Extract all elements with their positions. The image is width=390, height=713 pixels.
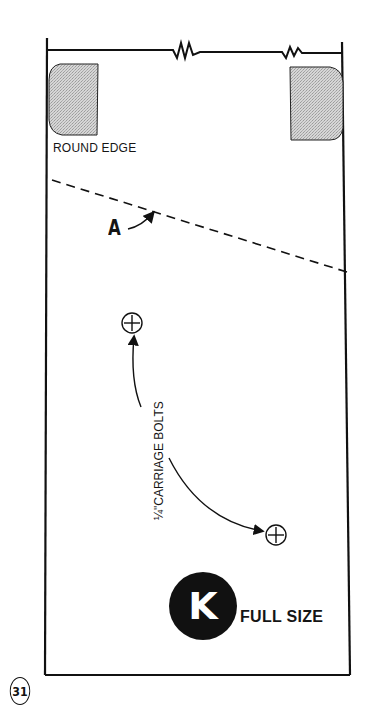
round-edge-left <box>49 64 98 135</box>
arrow-bolt-bottom <box>169 458 262 531</box>
page-number: 31 <box>10 677 30 705</box>
round-edge-label: ROUND EDGE <box>53 141 136 155</box>
break-line <box>48 43 342 58</box>
bolt-hole-top <box>122 313 142 333</box>
part-letter: K <box>177 580 229 632</box>
round-edge-right <box>290 67 343 140</box>
arrow-bolt-top <box>133 337 141 407</box>
cut-line-a <box>52 180 350 273</box>
bolt-hole-bottom <box>266 525 286 545</box>
arrow-a <box>128 213 153 229</box>
scale-label: FULL SIZE <box>240 608 323 626</box>
carriage-bolts-label: ¼"CARRIAGE BOLTS <box>152 401 166 520</box>
cut-line-label: A <box>108 215 121 240</box>
